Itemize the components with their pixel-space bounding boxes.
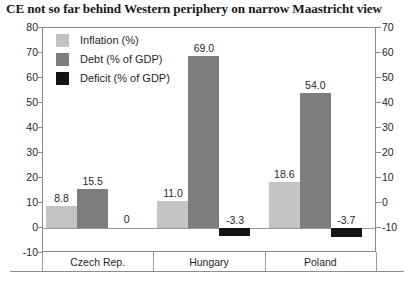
bar-poland-debt [300, 93, 331, 228]
bar-hungary-inflation [157, 201, 188, 229]
chart-title: CE not so far behind Western periphery o… [6, 0, 410, 18]
x-axis-categories: Czech Rep.HungaryPoland [42, 252, 376, 272]
chart-figure: CE not so far behind Western periphery o… [0, 0, 413, 283]
x-axis-separator [265, 252, 266, 271]
x-axis-separator [153, 252, 154, 271]
bar-poland-inflation [269, 182, 300, 229]
bar-value-label: 15.5 [70, 175, 115, 188]
x-axis-separator [376, 252, 377, 271]
bar-value-label: -3.3 [212, 214, 257, 227]
bar-hungary-deficit [219, 228, 250, 236]
bottom-rule [10, 271, 404, 272]
bar-czech-rep-inflation [46, 206, 77, 228]
legend-label: Debt (% of GDP) [80, 50, 163, 69]
chart-legend: Inflation (%)Debt (% of GDP)Deficit (% o… [56, 31, 206, 88]
legend-swatch-icon [56, 72, 69, 85]
legend-label: Inflation (%) [80, 31, 139, 50]
bar-value-label: -3.7 [324, 214, 369, 227]
bar-poland-deficit [331, 228, 362, 237]
x-axis-category-label: Poland [265, 255, 376, 269]
bar-group: 18.654.0-3.7 [266, 28, 377, 251]
bar-value-label: 54.0 [293, 79, 338, 92]
bar-value-label: 0 [104, 213, 149, 226]
legend-item: Inflation (%) [56, 31, 206, 50]
x-axis-separator [42, 252, 43, 271]
legend-item: Deficit (% of GDP) [56, 69, 206, 88]
legend-swatch-icon [56, 53, 69, 66]
x-axis-category-label: Czech Rep. [42, 255, 153, 269]
legend-item: Debt (% of GDP) [56, 50, 206, 69]
x-axis-category-label: Hungary [153, 255, 264, 269]
legend-label: Deficit (% of GDP) [80, 69, 170, 88]
legend-swatch-icon [56, 34, 69, 47]
